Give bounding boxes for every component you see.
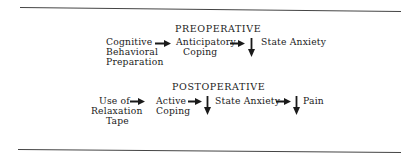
node-line: Coping [183,47,217,57]
right-arrow-icon [130,98,145,105]
node-line: Tape [106,116,129,126]
postop-node-state-anxiety: State Anxiety [215,96,280,106]
node-line: Coping [156,106,190,116]
preoperative-heading: PREOPERATIVE [175,23,261,34]
right-arrow-icon [230,40,245,47]
down-arrow-icon [204,96,211,115]
right-arrow-icon [188,98,202,105]
right-arrow-icon [276,98,291,105]
right-arrow-icon [155,40,171,47]
postop-node-pain: Pain [303,96,324,106]
down-arrow-icon [248,38,255,57]
preop-node-state-anxiety: State Anxiety [261,37,326,47]
node-line: Preparation [106,57,164,67]
top-rule [20,7,401,12]
down-arrow-icon [293,96,300,115]
bottom-rule [18,149,401,153]
postoperative-heading: POSTOPERATIVE [172,81,265,92]
